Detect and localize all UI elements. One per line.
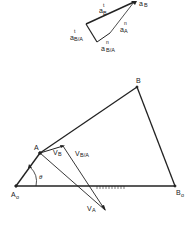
- label-aBA-n-sub: B/A: [106, 48, 115, 54]
- label-aA-n-sup: n: [124, 21, 127, 26]
- label-B0: B: [176, 189, 181, 196]
- link-A-B: [40, 87, 137, 153]
- acceleration-polygon: [86, 1, 137, 42]
- label-aB: a: [139, 0, 143, 7]
- link-B-B0: [137, 87, 175, 186]
- aBA-t-vector: [86, 24, 97, 42]
- label-aA-n-sub: A: [124, 29, 128, 35]
- joint-A: [39, 152, 42, 155]
- label-B0-sub: o: [181, 193, 184, 199]
- joint-B0: [174, 185, 176, 187]
- label-A0: A: [11, 191, 16, 198]
- label-VBA: V: [75, 150, 80, 157]
- label-aB-t-sup: t: [103, 3, 104, 8]
- label-B: B: [136, 77, 141, 84]
- diagram-canvas: [0, 0, 194, 227]
- VA-vector: [40, 153, 105, 210]
- label-aBA-t-sub: B/A: [74, 37, 83, 43]
- label-aBA-t-sup: t: [74, 29, 75, 34]
- label-aBA-n-sup: n: [106, 40, 109, 45]
- label-VA: V: [87, 205, 92, 212]
- label-VBA-sub: B/A: [80, 153, 89, 159]
- label-aBA-n: a: [101, 45, 105, 52]
- theta-arc: [30, 167, 36, 186]
- label-VB: V: [53, 149, 58, 156]
- label-aB-sub: B: [144, 3, 148, 9]
- label-A0-sub: o: [16, 195, 19, 201]
- label-aB-t-sub: B: [103, 11, 107, 17]
- label-theta: θ: [39, 174, 42, 180]
- joint-A0: [15, 185, 17, 187]
- label-A: A: [34, 144, 39, 151]
- VA-arrowhead-icon: [101, 205, 106, 211]
- label-VB-sub: B: [58, 152, 62, 158]
- joint-B: [136, 86, 138, 88]
- label-VA-sub: A: [92, 208, 96, 214]
